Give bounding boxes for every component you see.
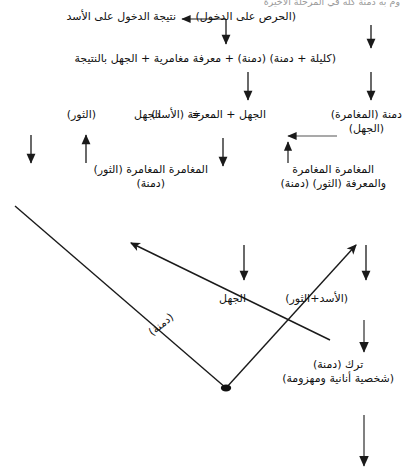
diagram-canvas: وم به دمنة كله في المرحلة الأخيرة نتيجة … [0, 0, 416, 472]
cut-off-top-line: وم به دمنة كله في المرحلة الأخيرة [264, 0, 400, 8]
vertex-marker [221, 385, 231, 392]
node-adventure-bull-line1: المغامرة المغامرة (الثور) [93, 163, 208, 176]
node-adventure-knowledge-group: المغامرة المغامرة والمعرفة (الثور) (دمنة… [281, 163, 387, 191]
node-adventure-bull-dimna-group: المغامرة المغامرة (الثور) (دمنة) [93, 163, 208, 191]
node-result-of-entering-lion: نتيجة الدخول على الأسد [66, 10, 176, 24]
node-eagerness-to-enter: (الحرص على الدخول) [196, 10, 296, 24]
node-adventure-bull-line2: (دمنة) [136, 177, 165, 190]
node-dimna-adventure-label: دمنة (المغامرة) [331, 108, 402, 121]
node-diagonal-dimna-label: (دمنة) [146, 311, 177, 340]
node-abandon-line1: ترك (دمنة) [313, 358, 363, 371]
node-ignorance-paren-label: (الجهل) [349, 122, 385, 135]
v-shape-left-branch [15, 206, 226, 388]
node-mid-ignorance: الجهل [219, 292, 246, 306]
node-ignorance-plus-knowledge-lion: الجهل + المعرفة (الأسد) [151, 108, 266, 122]
node-kalila-dimna-equation: (كليلة + دمنة) (دمنة) + معرفة مغامرية + … [74, 52, 336, 66]
node-lion-and-bull: (الأسد+الثور) [285, 292, 348, 306]
node-dimna-adventure: دمنة (المغامرة) (الجهل) [331, 108, 402, 136]
node-adventure-knowledge-line1: المغامرة المغامرة [292, 163, 374, 176]
node-bull: (الثور) [67, 108, 96, 122]
node-adventure-knowledge-line2: والمعرفة (الثور) (دمنة) [281, 177, 387, 190]
node-abandon-dimna: ترك (دمنة) (شخصية أنانية ومهزومة) [282, 358, 394, 386]
node-abandon-line2: (شخصية أنانية ومهزومة) [282, 372, 394, 385]
connector-layer [0, 0, 416, 472]
